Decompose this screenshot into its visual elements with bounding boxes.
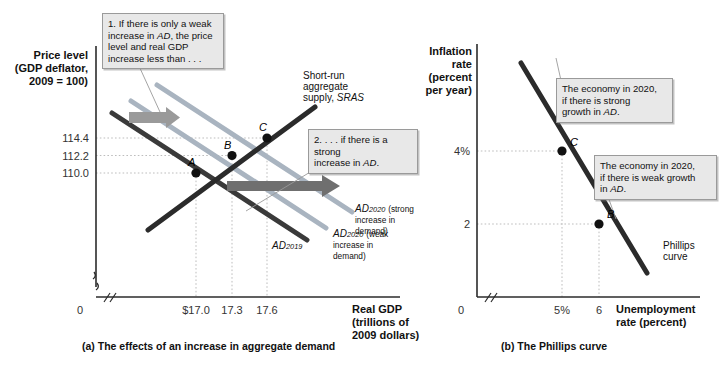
x-tick-origin: 0	[77, 304, 83, 316]
panel-aggregate-demand: A B C 114.4 112.2 110.0 0 $17.0 17.3 17.…	[0, 0, 420, 379]
callout-1-line-2: increase in AD, the price	[108, 30, 218, 42]
panel-b-x-axis-title: Unemployment rate (percent)	[616, 303, 720, 329]
x-tick-5pct: 5%	[554, 304, 570, 316]
callout-2-line-2: increase in AD.	[314, 157, 412, 169]
sras-label-line-2: aggregate	[303, 81, 395, 92]
panel-b-caption: (b) The Phillips curve	[501, 340, 607, 352]
x-axis-title-line-3: 2009 dollars)	[352, 329, 420, 342]
ad2020-weak-paren-1: (weak	[366, 229, 388, 239]
panel-a-y-axis-title: Price level (GDP deflator, 2009 = 100)	[0, 49, 88, 88]
ad2020-weak-paren-3: demand)	[333, 251, 397, 262]
y-axis-title-line-2: (GDP deflator,	[0, 62, 88, 75]
y-axis-title-b-line-2: rate	[420, 58, 472, 71]
y-axis-title-b-line-4: per year)	[420, 84, 472, 97]
x-tick-17-0: $17.0	[182, 304, 210, 316]
x-tick-6: 6	[596, 304, 602, 316]
ad2020-weak-main: AD	[333, 228, 347, 239]
y-tick-4pct: 4%	[454, 145, 470, 157]
callout-b2-line-1: The economy in 2020,	[600, 160, 711, 172]
y-axis-title-line-1: Price level	[0, 49, 88, 62]
weak-shift-arrow	[129, 107, 180, 128]
strong-shift-arrow	[227, 175, 340, 197]
point-label-b-b: B	[607, 208, 614, 220]
phillips-label-line-1: Phillips	[663, 240, 719, 251]
ad2019-sub: 2019	[286, 242, 302, 251]
panel-b-y-axis-title: Inflation rate (percent per year)	[420, 45, 472, 97]
panel-phillips-curve: C B 4% 2 0 5% 6 Inflation rate (percent …	[420, 0, 724, 379]
callout-b2-line-3: in AD.	[600, 183, 711, 195]
callout-strong-growth: The economy in 2020, if there is strong …	[556, 78, 673, 123]
ad2020-strong-sub: 2020	[369, 205, 385, 214]
sras-label-line-1: Short-run	[303, 70, 395, 81]
callout-b1-line-1: The economy in 2020,	[562, 83, 667, 95]
x-axis-title-b-line-2: rate (percent)	[616, 316, 720, 329]
ad2019-main: AD	[272, 240, 286, 251]
callout-1-line-4: increase less than . . .	[108, 53, 218, 65]
y-tick-114: 114.4	[62, 132, 89, 144]
sras-italic: SRAS	[337, 92, 364, 103]
x-axis-title-line-1: Real GDP	[352, 303, 420, 316]
y-axis-title-line-3: 2009 = 100)	[0, 75, 88, 88]
y-tick-110: 110.0	[62, 167, 89, 179]
callout-strong-increase: 2. . . . if there is a strong increase i…	[308, 129, 418, 174]
x-tick-17-6: 17.6	[256, 304, 277, 316]
callout-2-line-1: 2. . . . if there is a strong	[314, 134, 412, 157]
y-tick-2: 2	[464, 218, 470, 230]
ad2020-weak-paren-2: increase in	[333, 240, 397, 251]
callout-b2-line-2: if there is weak growth	[600, 172, 711, 184]
point-label-c-b: C	[570, 136, 578, 148]
callout-weak-growth: The economy in 2020, if there is weak gr…	[594, 155, 717, 200]
guide-lines-b	[477, 151, 599, 297]
y-tick-112: 112.2	[62, 150, 89, 162]
y-axis-title-b-line-3: (percent	[420, 71, 472, 84]
phillips-label-line-2: curve	[663, 251, 719, 262]
callout-weak-increase: 1. If there is only a weak increase in A…	[102, 13, 224, 69]
ad2020-strong-main: AD	[355, 203, 369, 214]
x-axis-title-b-line-1: Unemployment	[616, 303, 720, 316]
curve-label-sras: Short-run aggregate supply, SRAS	[303, 70, 395, 103]
callout-1-line-3: level and real GDP	[108, 41, 218, 53]
callout-1-line-1: 1. If there is only a weak	[108, 18, 218, 30]
curve-label-ad2019: AD2019	[272, 240, 302, 252]
panel-a-x-axis-title: Real GDP (trillions of 2009 dollars)	[352, 303, 420, 342]
x-tick-origin-b: 0	[458, 304, 464, 316]
ad2020-strong-paren-1: (strong	[388, 204, 414, 214]
curve-label-phillips: Phillips curve	[663, 240, 719, 262]
x-axis-title-line-2: (trillions of	[352, 316, 420, 329]
y-axis-title-b-line-1: Inflation	[420, 45, 472, 58]
point-label-a: A	[187, 156, 195, 168]
sras-label-line-3: supply, SRAS	[303, 92, 395, 103]
callout-b1-line-3: growth in AD.	[562, 106, 667, 118]
callout-b1-line-2: if there is strong	[562, 95, 667, 107]
x-tick-17-3: 17.3	[221, 304, 242, 316]
ad2020-strong-paren-2: increase in	[355, 215, 417, 226]
ad2020-weak-sub: 2020	[347, 230, 363, 239]
point-label-b: B	[224, 139, 231, 151]
point-label-c: C	[259, 121, 267, 133]
curve-label-ad2020-weak: AD2020 (weak increase in demand)	[333, 228, 397, 262]
panel-a-caption: (a) The effects of an increase in aggreg…	[82, 340, 335, 352]
